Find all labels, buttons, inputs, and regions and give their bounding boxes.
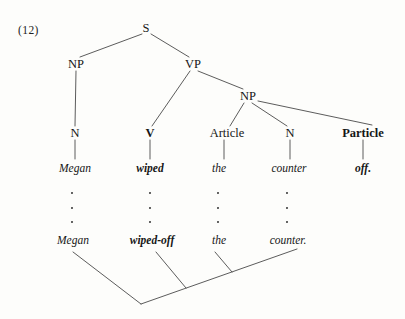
surface-word-s-megan: Megan [57, 235, 89, 247]
vp-to-v [152, 71, 190, 126]
move-stem-wiped [156, 252, 186, 288]
ellipsis-the-dot-0 [217, 192, 219, 194]
deep-word-w-megan: Megan [59, 163, 91, 175]
move-stem-counter [215, 252, 232, 272]
ellipsis-megan-dot-0 [71, 192, 73, 194]
category-node-n1: N [70, 127, 79, 140]
ellipsis-wiped-dot-1 [149, 207, 151, 209]
ellipsis-the-dot-2 [217, 221, 219, 223]
category-node-n2: N [285, 127, 294, 140]
s-to-vp [151, 34, 189, 57]
category-node-np1: NP [68, 58, 84, 71]
movement-line-group [73, 249, 297, 304]
tree-line-canvas [0, 0, 405, 319]
ellipsis-megan-dot-1 [71, 207, 73, 209]
deep-word-w-the: the [212, 163, 226, 175]
syntax-tree-figure: (12) SNPVPNPNVArticleNParticleMeganwiped… [0, 0, 405, 319]
ellipsis-counter-dot-0 [286, 192, 288, 194]
category-node-v: V [145, 127, 154, 140]
surface-word-s-counter: counter. [270, 235, 307, 247]
ellipsis-counter-dot-1 [286, 207, 288, 209]
deep-word-w-off: off. [355, 163, 371, 175]
surface-word-s-the: the [212, 235, 226, 247]
ellipsis-counter-dot-2 [286, 221, 288, 223]
np1-to-n1 [75, 71, 76, 126]
category-node-s: S [143, 22, 150, 35]
surface-word-s-wiped-off: wiped-off [130, 235, 175, 247]
category-node-particle: Particle [342, 127, 384, 140]
ellipsis-the-dot-1 [217, 207, 219, 209]
ellipsis-wiped-dot-2 [149, 221, 151, 223]
category-node-article: Article [210, 127, 245, 140]
s-to-np1 [80, 34, 142, 57]
ellipsis-wiped-dot-0 [149, 192, 151, 194]
np2-to-particle [258, 101, 372, 125]
deep-word-w-counter: counter [271, 163, 306, 175]
ellipsis-megan-dot-2 [71, 221, 73, 223]
vp-to-np2 [198, 71, 243, 89]
deep-word-w-wiped: wiped [136, 163, 163, 175]
np2-to-article [230, 103, 244, 126]
move-left-arm [73, 252, 141, 304]
ellipsis-dot-group [71, 192, 288, 223]
category-node-np2: NP [240, 90, 256, 103]
category-node-vp: VP [185, 58, 201, 71]
branch-line-group [75, 34, 372, 159]
